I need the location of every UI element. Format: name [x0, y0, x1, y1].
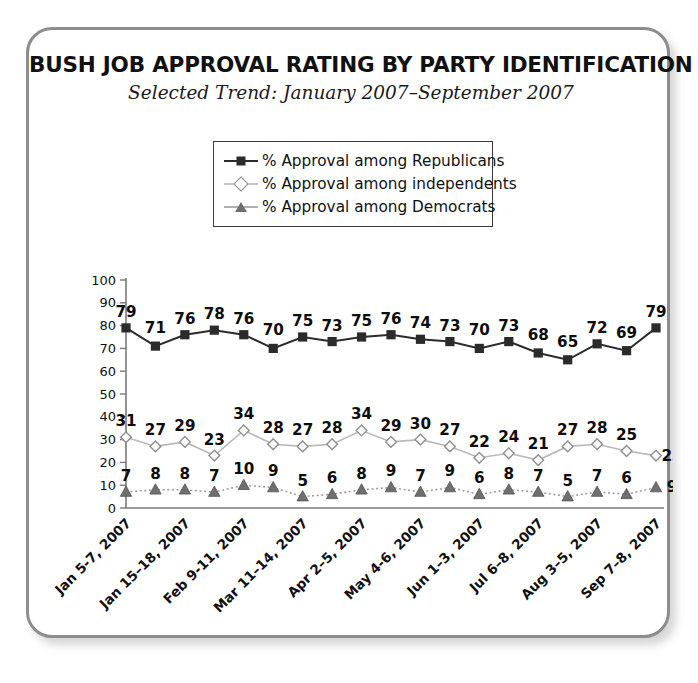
data-point-marker — [150, 484, 161, 494]
y-tick-label: 60 — [99, 364, 116, 379]
data-point-label: 24 — [498, 428, 519, 446]
data-point-label: 76 — [174, 310, 195, 328]
title-block: BUSH JOB APPROVAL RATING BY PARTY IDENTI… — [29, 52, 673, 103]
y-tick-label: 100 — [91, 273, 116, 288]
plot-area: 0102030405060708090100 31272923342827283… — [29, 226, 673, 636]
chart-card-frame: BUSH JOB APPROVAL RATING BY PARTY IDENTI… — [26, 27, 670, 638]
data-point-marker — [650, 481, 661, 491]
data-point-marker — [562, 441, 573, 452]
data-point-marker — [474, 452, 485, 463]
legend-label-independents: % Approval among independents — [262, 175, 517, 193]
data-point-label: 78 — [204, 305, 225, 323]
data-point-marker — [445, 337, 454, 346]
data-point-label: 22 — [469, 433, 490, 451]
data-point-label: 79 — [115, 303, 136, 321]
y-tick-label: 40 — [99, 409, 116, 424]
data-point-label: 6 — [327, 469, 338, 487]
data-point-label: 27 — [145, 421, 166, 439]
data-point-label: 72 — [587, 319, 608, 337]
y-tick-label: 10 — [99, 478, 116, 493]
line-chart-svg: 0102030405060708090100 31272923342827283… — [29, 226, 673, 636]
data-point-marker — [503, 484, 514, 494]
data-point-marker — [621, 446, 632, 457]
data-point-marker — [444, 481, 455, 491]
data-point-marker — [210, 326, 219, 335]
data-point-marker — [533, 455, 544, 466]
legend-item-republicans: % Approval among Republicans — [224, 149, 482, 172]
y-tick-label: 0 — [108, 501, 116, 516]
chart-subtitle: Selected Trend: January 2007–September 2… — [29, 82, 673, 103]
data-point-label: 30 — [410, 415, 431, 433]
data-point-label: 9 — [386, 462, 397, 480]
data-point-marker — [238, 479, 249, 489]
data-point-label: 73 — [498, 317, 519, 335]
data-point-marker — [180, 330, 189, 339]
data-point-marker — [150, 441, 161, 452]
data-point-label: 27 — [439, 421, 460, 439]
data-point-label: 70 — [469, 321, 490, 339]
square-icon — [224, 153, 258, 169]
data-point-label: 28 — [263, 419, 284, 437]
data-point-marker — [593, 339, 602, 348]
data-point-marker — [475, 344, 484, 353]
y-tick-label: 50 — [99, 387, 116, 402]
data-point-label: 7 — [415, 467, 426, 485]
data-point-marker — [533, 486, 544, 496]
data-point-marker — [327, 439, 338, 450]
data-point-marker — [415, 434, 426, 445]
legend-item-democrats: % Approval among Democrats — [224, 195, 482, 218]
data-point-marker — [239, 330, 248, 339]
data-point-marker — [179, 436, 190, 447]
y-tick-label: 90 — [99, 295, 116, 310]
x-tick-labels: Jan 5-7, 2007Jan 15–18, 2007Feb 9-11, 20… — [51, 515, 664, 616]
data-point-marker — [444, 441, 455, 452]
data-point-marker — [415, 486, 426, 496]
data-point-label: 70 — [263, 321, 284, 339]
data-point-label: 23 — [661, 447, 673, 465]
data-point-marker — [356, 484, 367, 494]
data-point-label: 23 — [204, 431, 225, 449]
data-point-label: 7 — [121, 467, 132, 485]
data-point-label: 34 — [233, 405, 254, 423]
legend-label-republicans: % Approval among Republicans — [262, 152, 504, 170]
data-point-label: 8 — [150, 465, 161, 483]
data-point-label: 25 — [616, 426, 637, 444]
legend-item-independents: % Approval among independents — [224, 172, 482, 195]
data-point-label: 29 — [380, 417, 401, 435]
data-point-label: 5 — [562, 472, 573, 490]
data-point-marker — [474, 488, 485, 498]
data-point-label: 9 — [445, 462, 456, 480]
data-point-marker — [592, 439, 603, 450]
data-point-marker — [651, 450, 662, 461]
data-point-label: 8 — [356, 465, 367, 483]
data-point-label: 6 — [474, 469, 485, 487]
data-point-marker — [328, 337, 337, 346]
y-tick-label: 80 — [99, 318, 116, 333]
data-point-label: 76 — [380, 310, 401, 328]
data-point-label: 28 — [587, 419, 608, 437]
data-point-label: 31 — [115, 412, 136, 430]
data-point-label: 75 — [351, 312, 372, 330]
data-point-marker — [503, 448, 514, 459]
data-point-label: 7 — [533, 467, 544, 485]
data-point-marker — [534, 348, 543, 357]
data-point-label: 5 — [297, 472, 308, 490]
chart-page: BUSH JOB APPROVAL RATING BY PARTY IDENTI… — [0, 0, 698, 683]
data-point-marker — [121, 432, 132, 443]
data-point-marker — [357, 332, 366, 341]
data-point-marker — [504, 337, 513, 346]
data-point-label: 65 — [557, 333, 578, 351]
data-point-marker — [622, 346, 631, 355]
data-point-marker — [121, 323, 130, 332]
y-tick-label: 30 — [99, 432, 116, 447]
data-point-label: 9 — [268, 462, 279, 480]
data-point-label: 27 — [292, 421, 313, 439]
data-point-label: 7 — [592, 467, 603, 485]
data-point-label: 8 — [503, 465, 514, 483]
data-point-label: 71 — [145, 319, 166, 337]
data-point-marker — [356, 425, 367, 436]
diamond-icon — [224, 176, 258, 192]
data-point-label: 7 — [209, 467, 220, 485]
data-point-marker — [386, 436, 397, 447]
data-point-marker — [651, 323, 660, 332]
